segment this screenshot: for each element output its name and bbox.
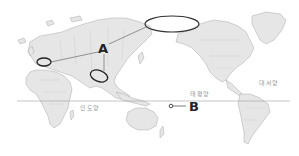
greenland-land — [252, 12, 286, 44]
marker-b-point — [169, 104, 173, 108]
japan-land — [138, 52, 144, 64]
atlantic-ocean-label: 대서양 — [259, 79, 279, 87]
iceland-land — [18, 38, 26, 44]
landmasses — [18, 12, 286, 144]
australia-land — [126, 108, 158, 130]
novaya-zemlya-land — [70, 16, 82, 22]
arctic-region-ellipse — [145, 16, 199, 32]
madagascar-land — [70, 110, 74, 120]
world-map: A B 인도양 태평양 대서양 — [0, 0, 299, 156]
marker-a-label: A — [98, 41, 108, 56]
indian-ocean-label: 인도양 — [80, 104, 100, 111]
north-america-land — [176, 20, 254, 82]
south-america-land — [238, 94, 270, 144]
africa-land — [26, 70, 72, 128]
new-zealand-land — [160, 126, 164, 138]
svalbard-land — [46, 20, 54, 26]
central-america-land — [226, 80, 242, 96]
pacific-ocean-label: 태평양 — [190, 90, 210, 98]
marker-b-label: B — [189, 99, 199, 114]
southeast-asia-land — [116, 92, 150, 106]
